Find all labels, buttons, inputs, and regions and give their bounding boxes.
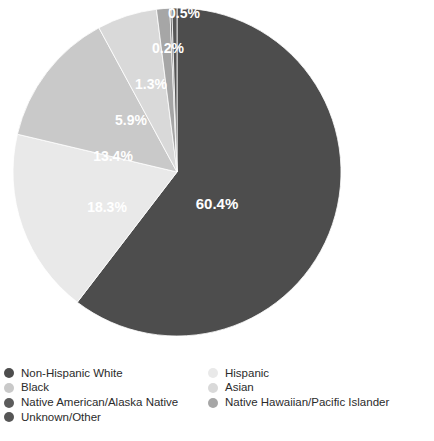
legend-item-label: Native American/Alaska Native bbox=[21, 397, 178, 409]
legend-swatch-icon bbox=[208, 368, 218, 378]
legend-item[interactable]: Hispanic bbox=[208, 366, 434, 381]
pie-chart-svg: 60.4%18.3%13.4%5.9%1.3%0.2%0.5% bbox=[0, 0, 434, 358]
legend-swatch-icon bbox=[4, 368, 14, 378]
legend-item[interactable]: Asian bbox=[208, 381, 434, 396]
legend-swatch-icon bbox=[4, 412, 14, 422]
pie-slice-group bbox=[13, 8, 341, 336]
legend-swatch-icon bbox=[4, 383, 14, 393]
legend-item[interactable]: Black bbox=[4, 381, 214, 396]
pie-slice-label: 18.3% bbox=[87, 199, 127, 215]
pie-chart-figure: 60.4%18.3%13.4%5.9%1.3%0.2%0.5% bbox=[0, 0, 434, 358]
legend-item[interactable]: Unknown/Other bbox=[4, 410, 214, 425]
legend-column-right: HispanicAsianNative Hawaiian/Pacific Isl… bbox=[208, 366, 434, 410]
legend-column-left: Non-Hispanic WhiteBlackNative American/A… bbox=[4, 366, 214, 425]
legend-swatch-icon bbox=[208, 383, 218, 393]
legend-item[interactable]: Non-Hispanic White bbox=[4, 366, 214, 381]
legend-item-label: Black bbox=[21, 382, 49, 394]
pie-slice-label: 5.9% bbox=[115, 112, 147, 128]
pie-slice-label: 60.4% bbox=[196, 195, 239, 212]
legend-item-label: Native Hawaiian/Pacific Islander bbox=[225, 397, 389, 409]
pie-slice-label: 1.3% bbox=[135, 76, 167, 92]
legend-item[interactable]: Native Hawaiian/Pacific Islander bbox=[208, 395, 434, 410]
legend-item-label: Asian bbox=[225, 382, 254, 394]
legend-swatch-icon bbox=[4, 398, 14, 408]
footer-caption-strip bbox=[4, 432, 430, 441]
legend-item-label: Non-Hispanic White bbox=[21, 368, 123, 380]
pie-slice-label: 13.4% bbox=[93, 148, 133, 164]
legend-swatch-icon bbox=[208, 398, 218, 408]
pie-slice-label: 0.2% bbox=[152, 40, 184, 56]
legend-item[interactable]: Native American/Alaska Native bbox=[4, 395, 214, 410]
chart-legend: Non-Hispanic WhiteBlackNative American/A… bbox=[0, 366, 434, 434]
legend-item-label: Unknown/Other bbox=[21, 412, 101, 424]
legend-item-label: Hispanic bbox=[225, 368, 269, 380]
pie-slice-label: 0.5% bbox=[168, 5, 200, 21]
